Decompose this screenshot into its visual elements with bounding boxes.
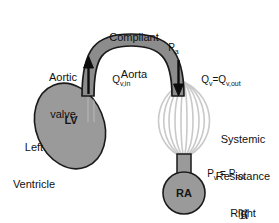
ra-inner-label: RA <box>171 187 197 199</box>
outflow-rate-base: Q <box>201 74 209 85</box>
systemic-resistance-label-line1: Systemic <box>207 133 279 145</box>
left-ventricle-label: Left Ventricle <box>3 116 65 215</box>
aortic-pressure-label: Pa <box>157 31 179 65</box>
aortic-pressure-subscript: a <box>175 48 179 55</box>
left-ventricle-label-line2: Ventricle <box>3 178 65 190</box>
inflow-rate-base: Q <box>112 74 120 85</box>
aortic-pressure-base: P <box>168 42 175 53</box>
inflow-rate-label: Qv,in <box>101 63 130 97</box>
right-atrium-label: Right Atrium <box>210 182 276 223</box>
outflow-rate-subscript-1: v <box>209 80 213 87</box>
aortic-valve-label-line1: Aortic <box>37 71 89 83</box>
outflow-rate-subscript-2: v,out <box>226 80 241 87</box>
inflow-rate-subscript: v,in <box>120 80 130 87</box>
right-atrium-label-line1: Right <box>210 207 276 219</box>
venous-connector-shape <box>177 154 191 174</box>
outflow-rate-equals: =Q <box>212 74 226 85</box>
outflow-rate-label: Qv=Qv,out <box>190 63 241 97</box>
venous-pressure-base: P <box>207 168 214 179</box>
ra-pressure-subscript: RA <box>235 174 245 181</box>
venous-pressure-subscript: v <box>214 174 218 181</box>
circulation-diagram: Compliant Aorta Pa Aortic valve Qv,in Qv… <box>0 0 279 223</box>
left-ventricle-label-line1: Left <box>3 141 65 153</box>
venous-pressure-equals: = P <box>217 168 235 179</box>
